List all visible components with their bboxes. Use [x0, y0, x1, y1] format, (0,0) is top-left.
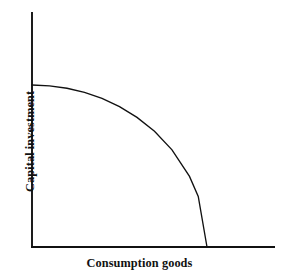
ppf-plot-area	[0, 0, 281, 280]
y-axis-label: Capital investment	[23, 91, 38, 192]
x-axis-label: Consumption goods	[0, 256, 280, 271]
ppf-curve-path	[32, 85, 207, 247]
ppf-chart-figure: Capital investment Consumption goods	[0, 0, 281, 280]
